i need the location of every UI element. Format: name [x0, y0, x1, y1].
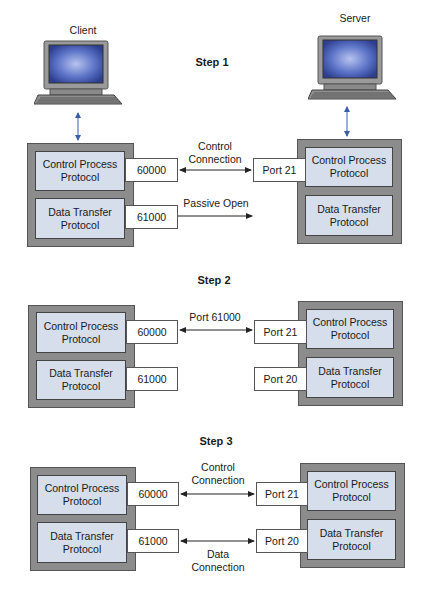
- connection-arrows: [0, 0, 424, 597]
